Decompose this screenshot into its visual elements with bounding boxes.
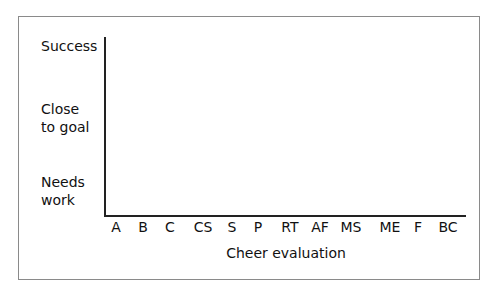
y-label-needs-work: Needs work — [41, 173, 91, 209]
y-axis — [104, 37, 106, 217]
x-tick-label: P — [254, 218, 262, 236]
x-axis-title: Cheer evaluation — [226, 245, 346, 261]
y-label-needs-text: Needs work — [41, 174, 85, 208]
x-tick-label: A — [111, 218, 121, 236]
y-label-close-to-goal: Close to goal — [41, 100, 91, 136]
y-label-success: Success — [41, 37, 97, 55]
x-tick-label: C — [165, 218, 175, 236]
x-tick-label: AF — [311, 218, 329, 236]
x-tick-label: MS — [341, 218, 362, 236]
x-tick-label: S — [228, 218, 237, 236]
x-tick-label: CS — [194, 218, 213, 236]
x-axis — [104, 215, 466, 217]
y-label-close-text: Close to goal — [41, 101, 89, 135]
x-tick-label: ME — [380, 218, 401, 236]
chart-frame — [18, 16, 480, 280]
x-tick-label: BC — [438, 218, 457, 236]
x-tick-label: F — [414, 218, 422, 236]
x-tick-label: B — [138, 218, 148, 236]
x-tick-label: RT — [281, 218, 298, 236]
